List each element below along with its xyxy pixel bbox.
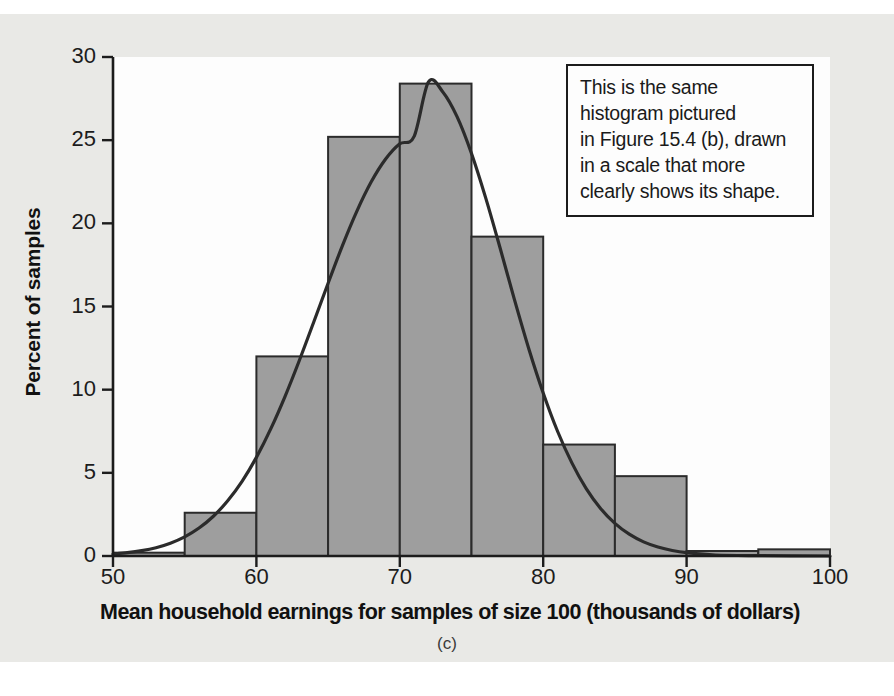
y-axis-title: Percent of samples — [21, 172, 45, 432]
annotation-line: in a scale that more — [580, 153, 800, 179]
x-axis-title: Mean household earnings for samples of s… — [30, 600, 870, 625]
annotation-line: in Figure 15.4 (b), drawn — [580, 127, 800, 153]
x-axis-tick-labels: 5060708090100 — [0, 566, 894, 596]
x-tick-label: 50 — [78, 566, 148, 588]
figure-caption: (c) — [0, 634, 894, 654]
annotation-line: clearly shows its shape. — [580, 179, 800, 205]
histogram-bar — [472, 237, 544, 556]
annotation-line: histogram pictured — [580, 101, 800, 127]
y-tick-label: 30 — [52, 45, 96, 67]
y-tick-label: 0 — [52, 544, 96, 566]
histogram-bar — [256, 356, 328, 556]
x-tick-label: 90 — [652, 566, 722, 588]
x-tick-label: 60 — [221, 566, 291, 588]
histogram-bar — [328, 137, 400, 556]
figure-container: 051015202530 5060708090100 Percent of sa… — [0, 0, 894, 696]
y-tick-label: 5 — [52, 461, 96, 483]
y-tick-label: 25 — [52, 128, 96, 150]
histogram-bar — [185, 513, 257, 556]
annotation-callout-box: This is the same histogram pictured in F… — [566, 64, 814, 217]
histogram-bar — [543, 445, 615, 556]
histogram-bar — [400, 84, 472, 556]
x-tick-label: 100 — [795, 566, 865, 588]
x-tick-label: 80 — [508, 566, 578, 588]
y-tick-label: 20 — [52, 211, 96, 233]
y-tick-label: 10 — [52, 378, 96, 400]
y-tick-label: 15 — [52, 295, 96, 317]
annotation-line: This is the same — [580, 75, 800, 101]
x-tick-label: 70 — [365, 566, 435, 588]
